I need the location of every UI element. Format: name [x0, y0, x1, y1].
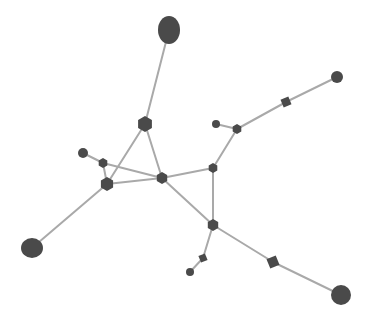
edge-node-h-node-i [237, 102, 286, 129]
node-node-n [267, 256, 280, 269]
edge-hub-e-node-f [162, 168, 213, 178]
node-node-i [281, 97, 292, 108]
node-small-j [331, 71, 343, 83]
edges-layer [32, 30, 341, 295]
edge-node-i-small-j [286, 77, 337, 102]
edge-hub-a-hub-e [145, 124, 162, 178]
edge-hub-a-hub-d [107, 124, 145, 184]
edge-top-large-hub-a [145, 30, 169, 124]
edge-node-f-node-h [213, 129, 237, 168]
edge-hub-d-left-large [32, 184, 107, 248]
node-hub-a [138, 116, 152, 132]
node-left-large [21, 238, 43, 258]
edge-node-k-node-n [213, 225, 273, 262]
node-small-m [186, 268, 194, 276]
node-top-large [158, 16, 180, 44]
node-node-c [99, 158, 108, 168]
node-right-large [331, 285, 351, 305]
node-small-b [78, 148, 88, 158]
edge-node-n-right-large [273, 262, 341, 295]
network-diagram [0, 0, 368, 321]
node-small-g [212, 120, 220, 128]
edge-hub-e-node-k [162, 178, 213, 225]
edge-hub-d-hub-e [107, 178, 162, 184]
nodes-layer [21, 16, 351, 305]
